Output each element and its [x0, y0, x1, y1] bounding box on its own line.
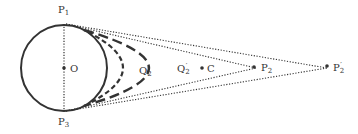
label-p2: P2 [261, 62, 272, 75]
dotted-line-p1-p2 [66, 24, 256, 68]
dotted-line-p3-p2 [66, 68, 256, 111]
label-c: C [207, 63, 215, 74]
point-p2-dot [252, 65, 256, 69]
label-q2-prime: Q2′ [177, 62, 190, 76]
point-c-dot [200, 66, 204, 70]
label-o: O [70, 63, 78, 74]
geometry-diagram: P1 P3 O Q2 Q2′ C P2 P2′ [0, 0, 358, 134]
dotted-line-p3-p2-prime [66, 68, 327, 111]
dotted-line-p1-p2-prime [66, 24, 327, 68]
point-o-dot [62, 66, 66, 70]
point-p2-prime-dot [325, 64, 329, 68]
label-p2-prime: P2′ [333, 61, 344, 75]
label-p3: P3 [58, 116, 69, 129]
label-p1: P1 [58, 4, 69, 17]
